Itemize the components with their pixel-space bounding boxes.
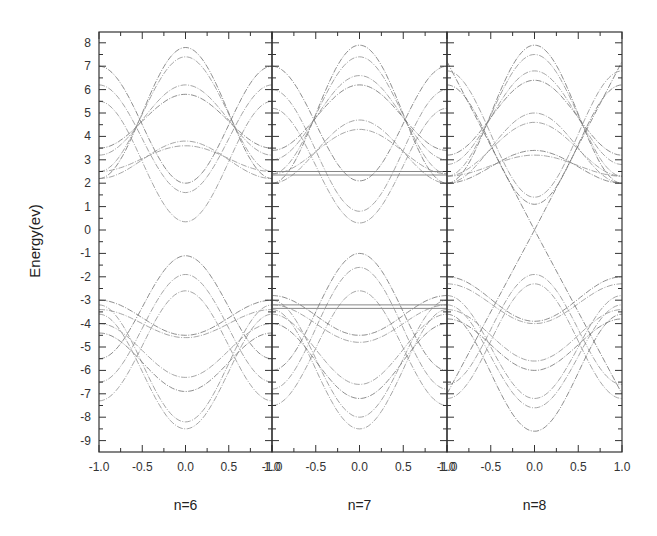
- energy-band: [447, 284, 622, 324]
- band-curves: [272, 45, 447, 429]
- y-tick-label: 2: [84, 176, 91, 190]
- y-tick-label: -5: [80, 340, 91, 354]
- y-tick-label: 5: [84, 106, 91, 120]
- energy-band: [99, 300, 272, 335]
- panel-label: n=7: [348, 497, 372, 513]
- x-tick-label: -1.0: [437, 460, 458, 474]
- x-tick-label: 0.0: [177, 460, 194, 474]
- energy-band: [447, 113, 622, 183]
- x-tick-label: -1.0: [262, 460, 283, 474]
- energy-band: [99, 146, 272, 172]
- x-tick-label: -0.5: [132, 460, 153, 474]
- energy-band: [99, 101, 272, 222]
- energy-band: [99, 314, 272, 429]
- plot-panels: -1.0-0.50.00.51.0n=6-1.0-0.50.00.51.0n=7…: [89, 32, 631, 513]
- energy-band: [99, 85, 272, 193]
- energy-band: [272, 85, 447, 150]
- band-structure-chart: Energy(ev) 876543210-1-2-3-4-5-6-7-8-9 -…: [0, 0, 657, 536]
- y-tick-label: -6: [80, 363, 91, 377]
- x-tick-label: -0.5: [305, 460, 326, 474]
- y-tick-label: 4: [84, 129, 91, 143]
- panel-label: n=6: [174, 497, 198, 513]
- energy-band: [99, 48, 272, 179]
- energy-band: [99, 66, 272, 183]
- y-tick-label: 0: [84, 223, 91, 237]
- y-tick-label: 7: [84, 59, 91, 73]
- x-tick-label: 0.5: [395, 460, 412, 474]
- energy-band: [272, 300, 447, 417]
- energy-band: [447, 296, 622, 399]
- panel-n8: -1.0-0.50.00.51.0n=8: [437, 32, 631, 513]
- y-tick-label: 1: [84, 200, 91, 214]
- panel-label: n=8: [523, 497, 547, 513]
- band-curves: [447, 45, 622, 431]
- y-axis-label: Energy(ev): [26, 204, 43, 277]
- x-tick-label: 0.0: [351, 460, 368, 474]
- panel-frame: [447, 32, 622, 452]
- energy-band: [272, 129, 447, 173]
- x-tick-label: 0.5: [570, 460, 587, 474]
- energy-band: [447, 45, 622, 183]
- y-tick-label: -2: [80, 270, 91, 284]
- energy-band: [447, 305, 622, 408]
- y-tick-label: -1: [80, 246, 91, 260]
- energy-band: [447, 275, 622, 385]
- y-tick-label: -3: [80, 293, 91, 307]
- energy-band: [272, 66, 447, 181]
- energy-band: [272, 76, 447, 160]
- band-curves: [99, 48, 272, 429]
- energy-band: [272, 108, 447, 223]
- panel-n7: -1.0-0.50.00.51.0n=7: [262, 32, 456, 513]
- energy-band: [272, 305, 447, 342]
- energy-band: [447, 277, 622, 322]
- linear-band: [447, 230, 622, 394]
- y-tick-label: 8: [84, 36, 91, 50]
- energy-band: [272, 253, 447, 370]
- y-tick-label: -7: [80, 387, 91, 401]
- y-tick-label: -4: [80, 317, 91, 331]
- energy-band: [272, 310, 447, 429]
- x-tick-label: -1.0: [89, 460, 110, 474]
- x-tick-label: 0.5: [220, 460, 237, 474]
- x-tick-label: -0.5: [480, 460, 501, 474]
- y-tick-label: -8: [80, 410, 91, 424]
- energy-band: [99, 85, 272, 155]
- y-tick-label: 6: [84, 83, 91, 97]
- energy-band: [447, 80, 622, 155]
- panel-n6: -1.0-0.50.00.51.0n=6: [89, 32, 281, 513]
- energy-band: [99, 305, 272, 422]
- x-tick-label: 0.0: [526, 460, 543, 474]
- x-tick-label: 1.0: [614, 460, 631, 474]
- y-axis-ticks: 876543210-1-2-3-4-5-6-7-8-9: [80, 36, 91, 448]
- energy-band: [99, 141, 272, 178]
- y-tick-label: 3: [84, 153, 91, 167]
- panel-frame: [99, 32, 272, 452]
- energy-band: [99, 57, 272, 172]
- energy-band: [447, 284, 622, 399]
- energy-band: [272, 90, 447, 212]
- panel-frame: [272, 32, 447, 452]
- energy-band: [447, 155, 622, 176]
- energy-band: [99, 333, 272, 392]
- y-tick-label: -9: [80, 434, 91, 448]
- energy-band: [447, 71, 622, 197]
- energy-band: [447, 55, 622, 177]
- energy-band: [99, 310, 272, 338]
- energy-band: [99, 94, 272, 148]
- energy-band: [447, 314, 622, 431]
- energy-band: [99, 324, 272, 378]
